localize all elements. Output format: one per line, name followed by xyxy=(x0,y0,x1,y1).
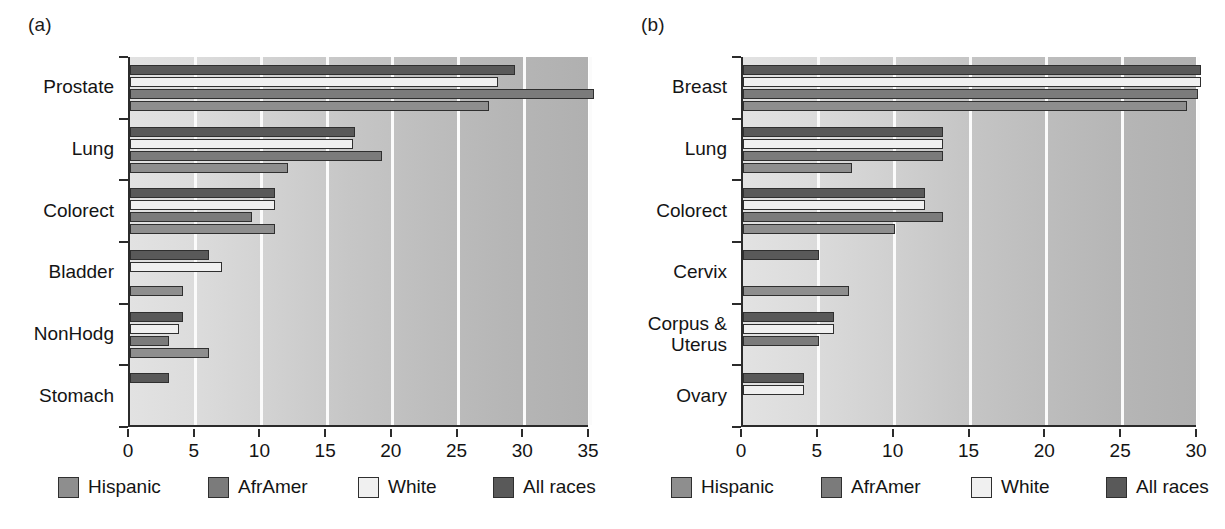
y-axis-label: Colorect xyxy=(613,200,727,221)
legend-item-all-races[interactable]: All races xyxy=(493,476,596,498)
x-axis-tick-label: 10 xyxy=(236,440,282,462)
legend-label: Hispanic xyxy=(88,476,161,498)
x-axis-tick-label: 35 xyxy=(565,440,611,462)
y-axis-label: Corpus & Uterus xyxy=(613,313,727,355)
bar-aframer xyxy=(130,336,169,346)
y-axis-label: Lung xyxy=(613,138,727,159)
bar-all-races xyxy=(743,373,804,383)
y-axis-label: Stomach xyxy=(0,385,114,406)
y-axis-tick xyxy=(732,118,741,120)
gridline xyxy=(817,57,820,425)
y-axis-tick xyxy=(119,56,128,58)
x-axis-tick-label: 20 xyxy=(368,440,414,462)
bar-hispanic xyxy=(130,348,209,358)
x-axis-tick-label: 25 xyxy=(1097,440,1143,462)
x-axis-tick-label: 0 xyxy=(718,440,764,462)
bar-all-races xyxy=(130,250,209,260)
bar-all-races xyxy=(130,373,169,383)
legend-swatch-white xyxy=(358,477,379,498)
legend-item-aframer[interactable]: AfrAmer xyxy=(208,476,308,498)
bar-all-races xyxy=(743,127,943,137)
gridline xyxy=(1121,57,1124,425)
y-axis-label: Bladder xyxy=(0,261,114,282)
gridline xyxy=(1197,57,1200,425)
bar-white xyxy=(130,200,275,210)
y-axis-tick xyxy=(119,426,128,428)
y-axis-tick xyxy=(732,56,741,58)
x-axis-tick xyxy=(587,429,589,437)
y-axis-label: Breast xyxy=(613,76,727,97)
bar-aframer xyxy=(743,336,819,346)
y-axis-label: Lung xyxy=(0,138,114,159)
bar-hispanic xyxy=(130,163,288,173)
bar-white xyxy=(743,324,834,334)
bar-white xyxy=(743,139,943,149)
gridline xyxy=(969,57,972,425)
x-axis-tick xyxy=(390,429,392,437)
bar-aframer xyxy=(743,89,1198,99)
bar-white xyxy=(130,324,179,334)
x-axis-tick xyxy=(127,429,129,437)
bar-all-races xyxy=(130,312,183,322)
y-axis-tick xyxy=(119,241,128,243)
x-axis-tick xyxy=(258,429,260,437)
plot-area-b xyxy=(741,57,1196,427)
x-axis-tick-label: 20 xyxy=(1021,440,1067,462)
x-axis-tick-label: 10 xyxy=(870,440,916,462)
bar-white xyxy=(130,77,498,87)
bar-all-races xyxy=(743,312,834,322)
bar-white xyxy=(743,200,925,210)
legend-item-hispanic[interactable]: Hispanic xyxy=(58,476,161,498)
bar-aframer xyxy=(130,212,252,222)
legend-swatch-hispanic xyxy=(58,477,79,498)
bar-all-races xyxy=(743,250,819,260)
legend-item-white[interactable]: White xyxy=(358,476,437,498)
y-axis-label: Colorect xyxy=(0,200,114,221)
gridline xyxy=(194,57,197,425)
x-axis-tick xyxy=(324,429,326,437)
x-axis-tick xyxy=(740,429,742,437)
bar-aframer xyxy=(743,151,943,161)
y-axis-tick xyxy=(119,179,128,181)
legend-label: AfrAmer xyxy=(238,476,308,498)
bar-hispanic xyxy=(743,101,1187,111)
y-axis-tick xyxy=(119,364,128,366)
y-axis-tick xyxy=(732,241,741,243)
bar-all-races xyxy=(743,65,1201,75)
gridline xyxy=(457,57,460,425)
x-axis-tick xyxy=(1195,429,1197,437)
x-axis-tick xyxy=(968,429,970,437)
gridline xyxy=(326,57,329,425)
gridline xyxy=(523,57,526,425)
x-axis-tick xyxy=(193,429,195,437)
y-axis-tick xyxy=(119,118,128,120)
legend-item-aframer[interactable]: AfrAmer xyxy=(821,476,921,498)
legend-item-white[interactable]: White xyxy=(971,476,1050,498)
x-axis-tick-label: 15 xyxy=(302,440,348,462)
x-axis-tick-label: 30 xyxy=(1173,440,1219,462)
x-axis-tick-label: 25 xyxy=(434,440,480,462)
bar-white xyxy=(743,77,1201,87)
legend-swatch-all-races xyxy=(493,477,514,498)
plot-background-a xyxy=(130,57,588,425)
x-axis-tick-label: 0 xyxy=(105,440,151,462)
panel-b-tag: (b) xyxy=(641,14,665,36)
bar-aframer xyxy=(130,151,382,161)
x-axis-tick-label: 30 xyxy=(499,440,545,462)
plot-area-a xyxy=(128,57,588,427)
legend-label: White xyxy=(388,476,437,498)
x-axis-tick xyxy=(892,429,894,437)
x-axis-tick xyxy=(1119,429,1121,437)
x-axis-tick-label: 5 xyxy=(794,440,840,462)
legend-item-hispanic[interactable]: Hispanic xyxy=(671,476,774,498)
bar-all-races xyxy=(130,127,355,137)
legend-item-all-races[interactable]: All races xyxy=(1106,476,1209,498)
x-axis-tick xyxy=(456,429,458,437)
x-axis-tick xyxy=(521,429,523,437)
gridline xyxy=(1045,57,1048,425)
bar-hispanic xyxy=(743,163,852,173)
y-axis-label: NonHodg xyxy=(0,323,114,344)
x-axis-tick xyxy=(1043,429,1045,437)
bar-all-races xyxy=(130,188,275,198)
bar-aframer xyxy=(743,212,943,222)
